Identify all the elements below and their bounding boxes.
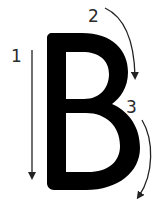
step-2-label: 2 [88, 8, 99, 25]
step-1-label: 1 [11, 48, 22, 65]
step-3-label: 3 [126, 99, 137, 116]
stroke-3-arrow [139, 120, 151, 196]
stroke-order-diagram: 1 2 3 [0, 0, 160, 211]
